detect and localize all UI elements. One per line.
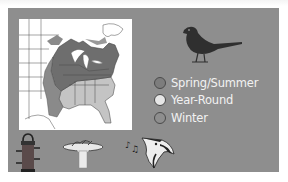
top-cropped-header xyxy=(0,0,288,6)
winter-swatch-icon xyxy=(154,112,166,124)
range-map xyxy=(19,19,132,130)
spring-summer-swatch-icon xyxy=(154,77,166,89)
range-map-graphic xyxy=(19,19,132,130)
legend-label: Winter xyxy=(171,111,208,125)
bird-silhouette-icon xyxy=(178,24,248,64)
svg-text:♫: ♫ xyxy=(131,144,139,154)
legend-label: Year-Round xyxy=(171,93,233,107)
legend-item-spring-summer: Spring/Summer xyxy=(154,74,278,92)
birdsong-icon: ♪ ♫ xyxy=(124,134,180,170)
legend-label: Spring/Summer xyxy=(171,76,258,90)
legend-item-year-round: Year-Round xyxy=(154,92,278,110)
year-round-swatch-icon xyxy=(154,94,166,106)
range-legend: Spring/Summer Year-Round Winter xyxy=(154,74,278,127)
legend-item-winter: Winter xyxy=(154,109,278,127)
feeder-icon xyxy=(16,133,40,173)
birdbath-icon xyxy=(60,138,106,170)
svg-text:♪: ♪ xyxy=(125,140,131,150)
